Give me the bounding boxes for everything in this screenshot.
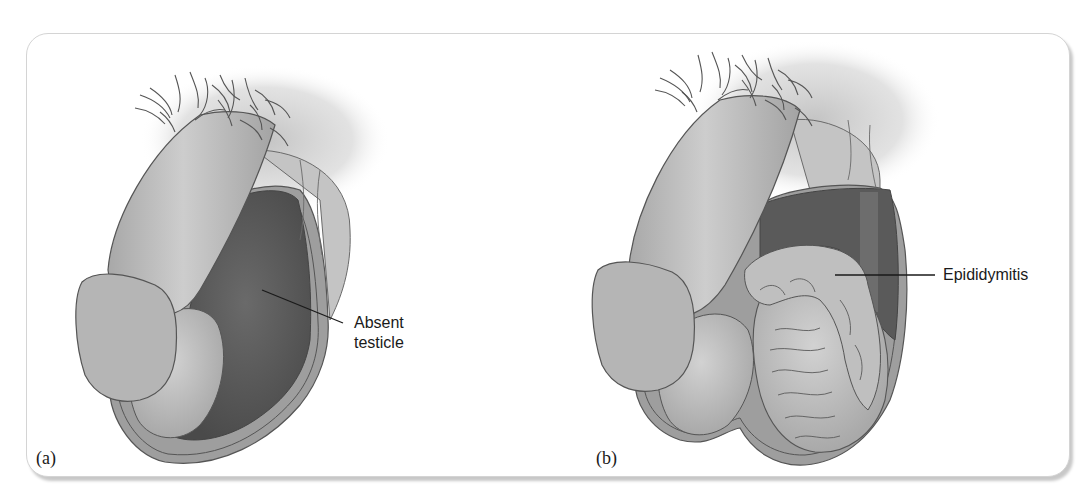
- callout-absent-testicle: Absent testicle: [354, 313, 404, 353]
- glans-b: [592, 262, 694, 391]
- callout-epididymitis: Epididymitis: [943, 265, 1028, 285]
- panel-b-illustration: [592, 40, 940, 465]
- callout-absent-testicle-line2: testicle: [354, 333, 404, 353]
- panel-a-illustration: [76, 65, 390, 463]
- callout-absent-testicle-line1: Absent: [354, 313, 404, 333]
- anatomy-illustration: [0, 0, 1085, 503]
- glans-a: [76, 274, 177, 401]
- panel-label-a: (a): [36, 448, 56, 469]
- panel-label-b: (b): [596, 448, 617, 469]
